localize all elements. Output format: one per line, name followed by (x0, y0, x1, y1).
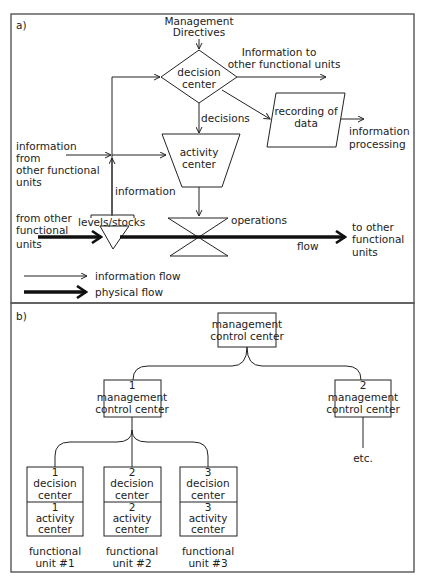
from-other-units-label: functional (16, 224, 68, 236)
unit-1-dc-label: center (38, 489, 72, 501)
information-label: information (115, 185, 176, 197)
unit-2-dc-label: center (115, 489, 149, 501)
panel-a-label: a) (16, 19, 27, 31)
functional-unit-3: 3 decision center 3 activity center func… (180, 466, 237, 569)
levels-stocks-label: levels/stocks (78, 216, 145, 228)
legend-physical-flow-label: physical flow (95, 286, 163, 298)
top-mcc-label: control center (210, 330, 284, 342)
info-to-other-label: Information to (242, 46, 317, 58)
unit-2-ac-label: center (115, 523, 149, 535)
unit-3-dc-label: decision (186, 477, 229, 489)
mcc-2-label: control center (326, 403, 400, 415)
to-other-units-label: to other (352, 221, 395, 233)
to-other-units-label: units (352, 246, 378, 258)
unit-3-dc-label: center (191, 489, 225, 501)
activity-center-label: center (182, 158, 216, 170)
management-directives-label: Directives (173, 26, 226, 38)
panel-a: a) Management Directives decision center… (16, 15, 410, 298)
unit-1-dc-label: decision (33, 477, 76, 489)
top-branch-connector (133, 347, 361, 380)
mcc-1-label: control center (95, 403, 169, 415)
mcc-1-number: 1 (129, 379, 136, 391)
from-other-units-label: from other (16, 212, 72, 224)
mcc-1-label: management (97, 391, 167, 403)
flow-label: flow (297, 240, 319, 252)
legend-information-flow-label: information flow (95, 270, 181, 282)
decision-center-label: center (182, 78, 216, 90)
unit-2-caption: unit #2 (112, 557, 151, 569)
decision-center-label: decision (177, 66, 220, 78)
operations-label: operations (231, 214, 287, 226)
unit-2-caption: functional (106, 545, 158, 557)
info-from-other-label: information (16, 140, 77, 152)
from-other-units-label: units (16, 238, 42, 250)
etc-label: etc. (353, 452, 373, 464)
mcc-2-label: management (328, 391, 398, 403)
unit-1-caption: functional (29, 545, 81, 557)
unit-2-dc-label: decision (110, 477, 153, 489)
unit-1-ac-label: center (38, 523, 72, 535)
legend: information flow physical flow (24, 270, 181, 298)
info-from-other-label: from (16, 152, 40, 164)
recording-of-data-label: recording of (274, 105, 338, 117)
info-from-other-label: units (16, 176, 42, 188)
top-mcc-label: management (212, 318, 282, 330)
decisions-label: decisions (201, 112, 250, 124)
functional-unit-1: 1 decision center 1 activity center func… (27, 466, 83, 569)
panel-b-label: b) (16, 310, 27, 322)
info-to-other-label: other functional units (228, 58, 341, 70)
unit-3-ac-label: center (191, 523, 225, 535)
unit-3-caption: unit #3 (188, 557, 227, 569)
unit-3-caption: functional (182, 545, 234, 557)
info-processing-label: information (349, 125, 410, 137)
info-processing-label: processing (349, 138, 406, 150)
recording-of-data-label: data (294, 117, 318, 129)
activity-center-label: activity (180, 146, 219, 158)
functional-unit-2: 2 decision center 2 activity center func… (104, 466, 161, 569)
diagram-canvas: a) Management Directives decision center… (0, 0, 424, 582)
unit-1-caption: unit #1 (35, 557, 74, 569)
mcc-1-branch-connector (55, 417, 208, 467)
mcc-2-number: 2 (360, 379, 367, 391)
info-from-other-label: other functional (16, 164, 100, 176)
to-other-units-label: functional (352, 233, 404, 245)
panel-b: b) management control center 1 managemen… (16, 310, 400, 569)
